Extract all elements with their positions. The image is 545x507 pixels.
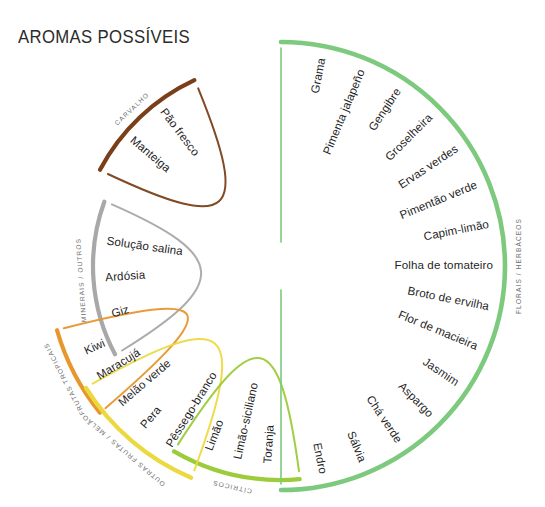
aroma-label-5-11: Aspargo — [396, 379, 436, 419]
aroma-label-5-2: Gengibre — [365, 85, 403, 133]
aroma-label-5-0: Grama — [308, 56, 328, 94]
category-name-4: CÍTRICOS — [211, 480, 252, 497]
aroma-label-5-8: Broto de ervilha — [407, 283, 491, 312]
aroma-label-2-0: Maracujá — [94, 345, 143, 382]
category-name-5: FLORAIS / HERBÁCEOS — [514, 218, 522, 314]
aroma-label-3-1: Pera — [137, 403, 163, 431]
aroma-label-4-0: Toranja — [260, 424, 276, 464]
aroma-label-1-0: Giz — [110, 302, 131, 319]
category-name-1: MINERAIS / OUTROS — [74, 238, 87, 323]
aroma-label-5-7: Folha de tomateiro — [395, 258, 493, 271]
aroma-label-1-2: Solução salina — [106, 234, 184, 258]
aroma-label-4-1: Limão-siciliano — [230, 381, 260, 460]
aroma-label-5-4: Ervas verdes — [396, 142, 461, 191]
category-name-3: OUTRAS FRUTAS / MELÃO — [80, 413, 166, 488]
aroma-label-4-2: Limão — [202, 418, 226, 453]
aroma-label-0-0: Manteiga — [128, 133, 174, 175]
aroma-label-0-1: Pão fresco — [158, 105, 203, 158]
aroma-label-5-6: Capim-limão — [422, 217, 489, 243]
aroma-wheel-diagram: ManteigaPão frescoGizArdósiaSolução sali… — [0, 0, 545, 507]
aroma-label-1-1: Ardósia — [105, 268, 146, 284]
aroma-label-5-1: Pimenta jalapeño — [320, 67, 367, 156]
aroma-labels-layer: ManteigaPão frescoGizArdósiaSolução sali… — [82, 56, 493, 475]
aroma-label-5-3: Groselheira — [382, 110, 435, 163]
category-name-0: CARVALHO — [113, 91, 150, 127]
aroma-label-5-10: Jasmim — [421, 355, 462, 388]
aroma-label-2-1: Kiwi — [82, 336, 107, 357]
aroma-label-5-12: Chá verde — [364, 393, 405, 445]
aroma-label-5-9: Flor de macieira — [397, 307, 481, 352]
aroma-wheel-page: AROMAS POSSÍVEIS ManteigaPão frescoGizAr… — [0, 0, 545, 507]
aroma-label-5-14: Endro — [311, 442, 330, 475]
aroma-label-5-13: Sálvia — [345, 429, 369, 464]
